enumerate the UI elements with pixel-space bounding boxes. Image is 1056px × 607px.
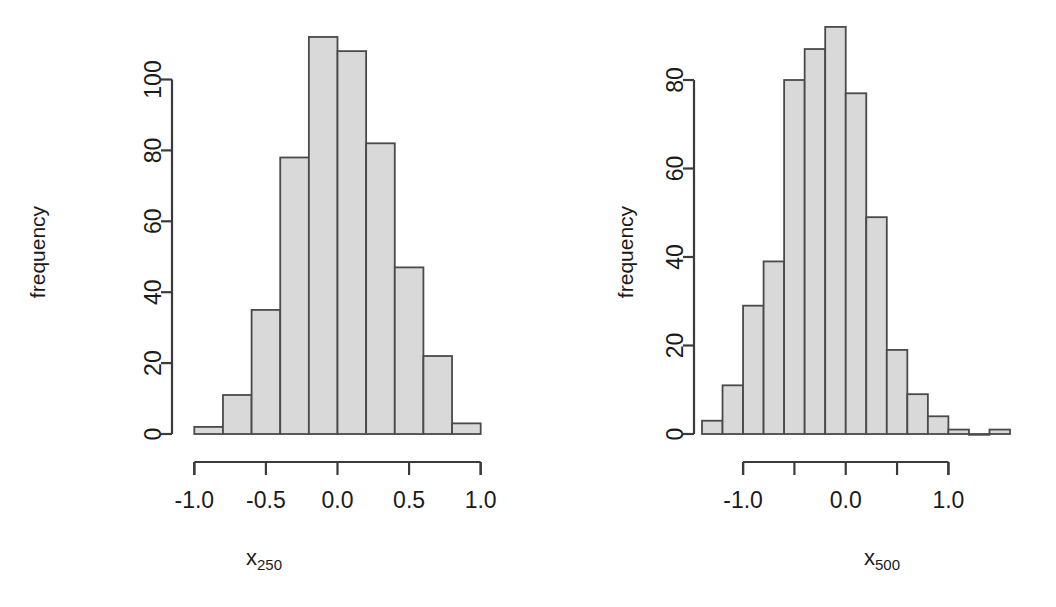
histogram-bar-rect — [784, 80, 805, 434]
histogram-bar-rect — [887, 350, 908, 434]
histogram-bar-rect — [223, 395, 252, 434]
left-bar-group — [194, 37, 480, 434]
histogram-bar — [969, 434, 990, 435]
histogram-bar-rect — [338, 51, 367, 434]
histogram-bar-rect — [846, 93, 867, 434]
histogram-bar-rect — [866, 217, 887, 434]
x-axis-tick-label: 0.0 — [830, 487, 862, 513]
histogram-bar — [764, 261, 785, 434]
histogram-bar — [784, 80, 805, 434]
left-x-axis-label-subscript: 250 — [257, 556, 282, 573]
histogram-bar-rect — [452, 423, 481, 434]
histogram-bar — [887, 350, 908, 434]
y-axis-tick-label: 20 — [140, 350, 166, 376]
y-axis-tick-label: 0 — [140, 428, 166, 441]
panel-left: 020406080100 -1.0-0.50.00.51.0 frequency… — [0, 0, 528, 607]
histogram-bar-rect — [969, 434, 990, 435]
x-axis-tick-label: 1.0 — [465, 487, 497, 513]
histogram-bar — [805, 49, 826, 434]
histogram-bar-rect — [423, 356, 452, 434]
right-y-axis-label: frequency — [614, 192, 638, 312]
histogram-bar — [309, 37, 338, 434]
right-y-axis: 020406080 — [662, 67, 694, 440]
histogram-bar-rect — [764, 261, 785, 434]
left-x-axis: -1.0-0.50.00.51.0 — [174, 462, 496, 513]
right-x-axis: -1.00.01.0 — [723, 462, 964, 513]
x-axis-tick-label: -0.5 — [246, 487, 286, 513]
histogram-bar-rect — [309, 37, 338, 434]
histogram-bar-rect — [948, 430, 969, 434]
histogram-bar — [846, 93, 867, 434]
left-y-axis-label: frequency — [26, 192, 50, 312]
histogram-bar — [223, 395, 252, 434]
y-axis-tick-label: 40 — [140, 279, 166, 305]
histogram-bar — [907, 394, 928, 434]
right-plot-canvas: 020406080 -1.00.01.0 — [528, 0, 1056, 520]
x-axis-tick-label: 0.0 — [322, 487, 354, 513]
histogram-bar-rect — [825, 27, 846, 434]
histogram-bar — [366, 143, 395, 434]
panel-right: 020406080 -1.00.01.0 frequency x500 — [528, 0, 1056, 607]
x-axis-tick-label: -1.0 — [723, 487, 763, 513]
histogram-bar — [743, 306, 764, 434]
histogram-bar — [252, 310, 281, 434]
histogram-bar — [423, 356, 452, 434]
histogram-bar — [989, 430, 1010, 434]
histogram-bar — [702, 421, 723, 434]
histogram-bar-rect — [252, 310, 281, 434]
x-axis-tick-label: 1.0 — [932, 487, 964, 513]
histogram-bar-rect — [280, 157, 309, 434]
histogram-bar — [928, 416, 949, 434]
left-plot-canvas: 020406080100 -1.0-0.50.00.51.0 — [0, 0, 528, 520]
histogram-bar — [866, 217, 887, 434]
left-x-axis-label-base: x — [246, 545, 257, 570]
histogram-bar — [395, 267, 424, 434]
histogram-bar — [948, 430, 969, 434]
histogram-bar — [194, 427, 223, 434]
histogram-bar-rect — [743, 306, 764, 434]
histogram-bar-rect — [366, 143, 395, 434]
right-x-axis-label-subscript: 500 — [875, 556, 900, 573]
histogram-bar-rect — [989, 430, 1010, 434]
histogram-bar-rect — [723, 385, 744, 434]
right-x-axis-label: x500 — [782, 545, 982, 573]
right-bar-group — [702, 27, 1010, 435]
right-x-axis-label-base: x — [864, 545, 875, 570]
histogram-bar-rect — [907, 394, 928, 434]
histogram-bar-rect — [805, 49, 826, 434]
histogram-bar — [452, 423, 481, 434]
y-axis-tick-label: 80 — [662, 67, 688, 93]
histogram-bar-rect — [702, 421, 723, 434]
y-axis-tick-label: 60 — [662, 156, 688, 182]
y-axis-tick-label: 100 — [140, 60, 166, 98]
y-axis-tick-label: 60 — [140, 209, 166, 235]
y-axis-tick-label: 40 — [662, 244, 688, 270]
histogram-bar — [280, 157, 309, 434]
y-axis-tick-label: 80 — [140, 138, 166, 164]
y-axis-tick-label: 20 — [662, 333, 688, 359]
histogram-bar-rect — [194, 427, 223, 434]
y-axis-tick-label: 0 — [662, 428, 688, 441]
histogram-bar — [338, 51, 367, 434]
left-x-axis-label: x250 — [164, 545, 364, 573]
histogram-bar-rect — [395, 267, 424, 434]
histogram-bar — [723, 385, 744, 434]
left-y-axis: 020406080100 — [140, 60, 172, 440]
histogram-figure: 020406080100 -1.0-0.50.00.51.0 frequency… — [0, 0, 1056, 607]
histogram-bar-rect — [928, 416, 949, 434]
histogram-bar — [825, 27, 846, 434]
x-axis-tick-label: 0.5 — [393, 487, 425, 513]
x-axis-tick-label: -1.0 — [174, 487, 214, 513]
